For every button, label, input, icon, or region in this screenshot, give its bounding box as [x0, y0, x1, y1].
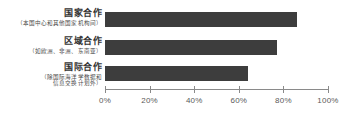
- category-sublabel-2-line-1: 信息交换计划外）: [0, 80, 102, 86]
- plot-area: 0% 20% 40% 60% 80% 100%: [105, 0, 328, 114]
- bar-track-1: [105, 40, 328, 55]
- category-title-1: 区域合作: [0, 37, 102, 47]
- category-sublabel-1: （如欧洲、非洲、东南亚）: [0, 48, 102, 54]
- category-label-0: 国家合作 （本国中心和其他国家机构间）: [0, 9, 102, 26]
- bar-track-2: [105, 66, 328, 81]
- category-label-column: 国家合作 （本国中心和其他国家机构间） 区域合作 （如欧洲、非洲、东南亚） 国际…: [0, 0, 102, 92]
- bar-1: [105, 40, 277, 55]
- bar-2: [105, 66, 248, 81]
- bar-0: [105, 12, 297, 27]
- x-axis-tick-3: [239, 86, 240, 93]
- category-label-1: 区域合作 （如欧洲、非洲、东南亚）: [0, 37, 102, 54]
- x-axis-tick-label-2: 40%: [186, 96, 203, 105]
- x-axis-tick-label-4: 80%: [275, 96, 292, 105]
- category-title-2: 国际合作: [0, 63, 102, 73]
- x-axis-tick-label-0: 0%: [99, 96, 111, 105]
- x-axis-tick-2: [194, 86, 195, 93]
- x-axis-tick-5: [328, 86, 329, 93]
- x-axis-tick-label-3: 60%: [230, 96, 247, 105]
- category-sublabel-0: （本国中心和其他国家机构间）: [0, 20, 102, 26]
- x-axis-tick-label-1: 20%: [141, 96, 158, 105]
- category-title-0: 国家合作: [0, 9, 102, 19]
- category-sublabel-2: （除国际海洋学数据和 信息交换计划外）: [0, 74, 102, 86]
- x-axis-tick-label-5: 100%: [317, 96, 338, 105]
- category-sublabel-1-line-0: （如欧洲、非洲、东南亚）: [0, 48, 102, 54]
- x-axis-tick-0: [105, 86, 106, 93]
- category-label-2: 国际合作 （除国际海洋学数据和 信息交换计划外）: [0, 63, 102, 86]
- x-axis-tick-4: [283, 86, 284, 93]
- bar-track-0: [105, 12, 328, 27]
- category-sublabel-0-line-0: （本国中心和其他国家机构间）: [0, 20, 102, 26]
- x-axis-line: [105, 89, 328, 90]
- x-axis-tick-1: [150, 86, 151, 93]
